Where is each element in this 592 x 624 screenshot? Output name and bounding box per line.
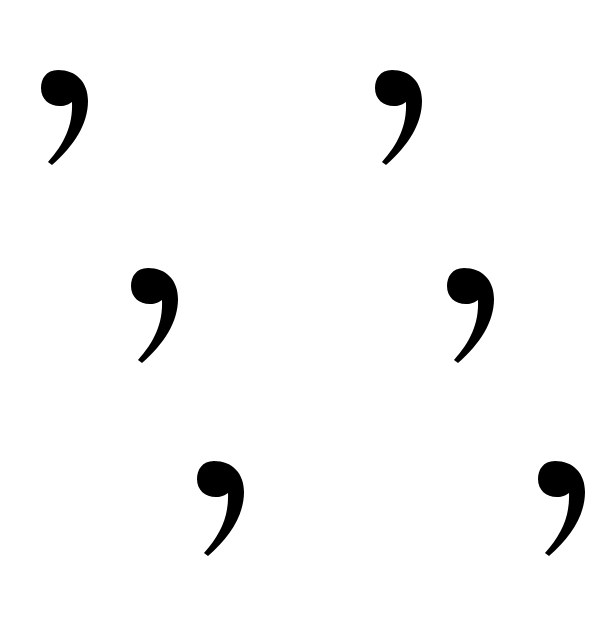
comma-icon (372, 66, 432, 166)
comma-glyph-5 (194, 457, 254, 557)
comma-icon (194, 457, 254, 557)
comma-glyph-2 (372, 66, 432, 166)
comma-glyph-1 (38, 66, 98, 166)
comma-glyph-3 (128, 264, 188, 364)
comma-glyph-6 (535, 457, 592, 557)
comma-icon (128, 264, 188, 364)
comma-icon (535, 457, 592, 557)
comma-glyph-4 (444, 264, 504, 364)
comma-icon (444, 264, 504, 364)
comma-icon (38, 66, 98, 166)
